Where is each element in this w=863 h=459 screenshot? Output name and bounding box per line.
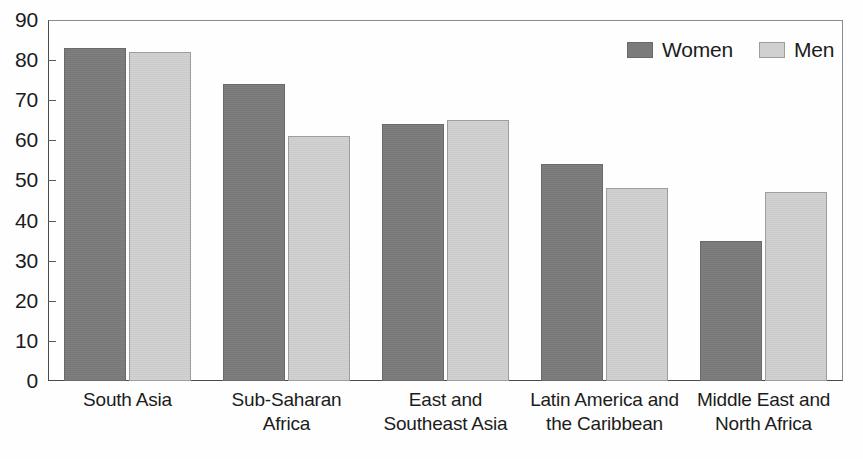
x-axis-label-line: South Asia [48, 388, 207, 412]
bar-men-3[interactable] [606, 188, 668, 381]
x-axis-label-line: Africa [207, 412, 366, 436]
y-axis-tick-mark [48, 301, 56, 302]
bar-men-0[interactable] [129, 52, 191, 381]
x-axis-label-2: East andSoutheast Asia [366, 388, 525, 437]
y-axis-tick-label: 80 [15, 49, 38, 70]
y-axis-tick-label: 40 [15, 210, 38, 231]
y-axis-tick-label: 90 [15, 9, 38, 30]
clipped-caption-remnant [0, 0, 863, 3]
x-axis-label-0: South Asia [48, 388, 207, 412]
bar-men-2[interactable] [447, 120, 509, 381]
x-axis-label-line: the Caribbean [525, 412, 684, 436]
y-axis-tick-label: 10 [15, 330, 38, 351]
x-axis-label-line: Sub-Saharan [207, 388, 366, 412]
x-axis-label-line: Latin America and [525, 388, 684, 412]
y-axis-tick-label: 70 [15, 89, 38, 110]
y-axis-tick-mark [48, 261, 56, 262]
x-axis-label-1: Sub-SaharanAfrica [207, 388, 366, 437]
y-axis-tick-mark [48, 100, 56, 101]
bar-women-1[interactable] [223, 84, 285, 381]
x-axis-label-line: East and [366, 388, 525, 412]
x-axis-label-line: Southeast Asia [366, 412, 525, 436]
y-axis-tick-label: 20 [15, 290, 38, 311]
y-axis-tick-mark [48, 221, 56, 222]
y-axis-tick-label: 50 [15, 169, 38, 190]
men-swatch [759, 42, 785, 58]
legend-item-men[interactable]: Men [759, 39, 834, 60]
y-axis-tick-label: 30 [15, 250, 38, 271]
y-axis-tick-label: 0 [27, 370, 38, 391]
legend-label: Women [662, 39, 733, 60]
legend-item-women[interactable]: Women [627, 39, 733, 60]
y-axis-tick-mark [48, 140, 56, 141]
y-axis: 0102030405060708090 [0, 0, 48, 459]
y-axis-tick-label: 60 [15, 129, 38, 150]
bar-women-2[interactable] [382, 124, 444, 381]
women-swatch [627, 42, 653, 58]
bar-women-3[interactable] [541, 164, 603, 381]
bar-chart: 0102030405060708090 South AsiaSub-Sahara… [0, 0, 863, 459]
y-axis-tick-mark [48, 60, 56, 61]
y-axis-tick-mark [48, 341, 56, 342]
x-axis-label-4: Middle East andNorth Africa [684, 388, 843, 437]
legend-label: Men [794, 39, 834, 60]
x-axis-label-line: North Africa [684, 412, 843, 436]
bar-women-0[interactable] [64, 48, 126, 381]
bar-men-4[interactable] [765, 192, 827, 381]
x-axis-label-3: Latin America andthe Caribbean [525, 388, 684, 437]
bar-men-1[interactable] [288, 136, 350, 381]
x-axis-label-line: Middle East and [684, 388, 843, 412]
bar-women-4[interactable] [700, 241, 762, 381]
legend: WomenMen [627, 39, 834, 60]
y-axis-tick-mark [48, 180, 56, 181]
